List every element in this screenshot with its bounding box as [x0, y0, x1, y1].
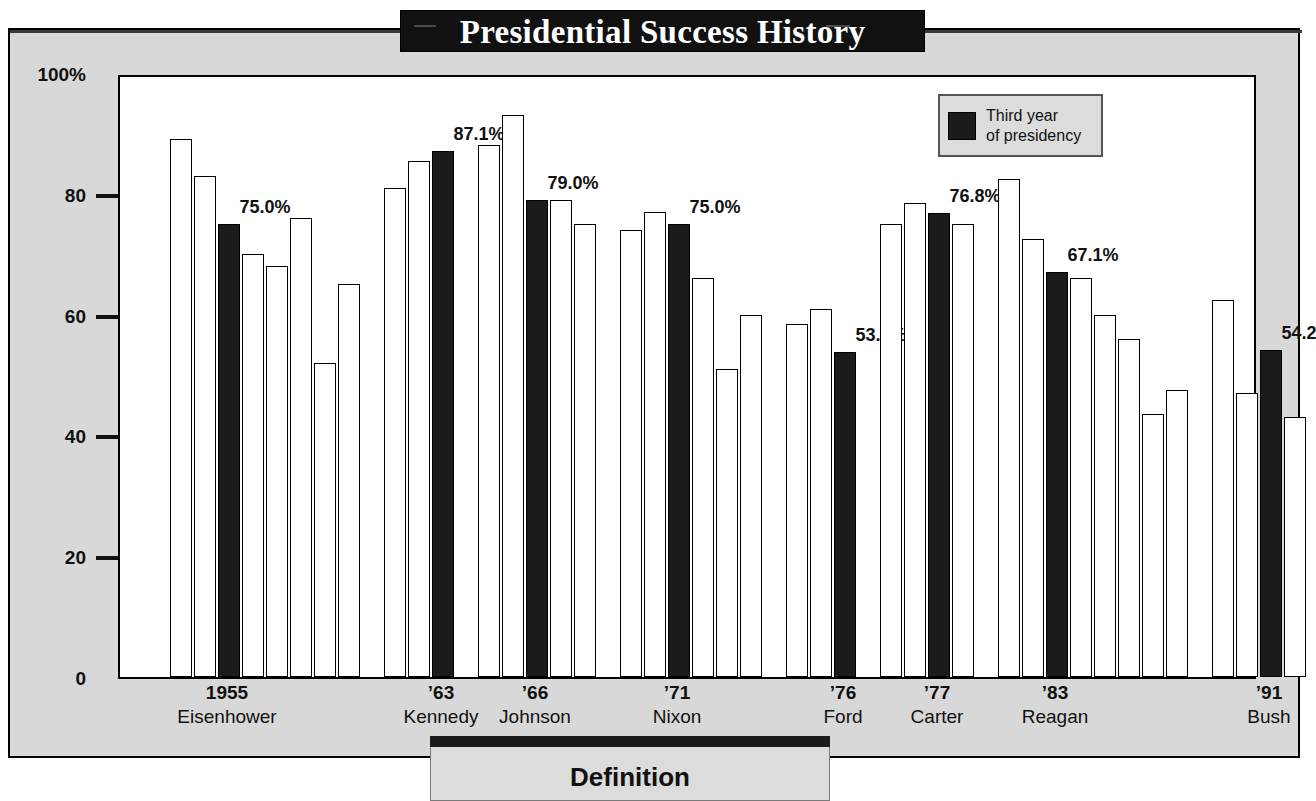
bar-third-year — [668, 224, 690, 677]
x-axis-president: Eisenhower — [177, 705, 276, 729]
bar-third-year — [834, 352, 856, 677]
bar — [1236, 393, 1258, 677]
bar-third-year — [432, 151, 454, 677]
bar-value-label: 76.8% — [949, 186, 1000, 207]
bar — [740, 315, 762, 677]
bar — [1212, 300, 1234, 678]
bar — [880, 224, 902, 677]
y-tick-label: 40 — [65, 426, 86, 448]
definition-panel: Definition — [430, 736, 830, 801]
chart-panel: 100%806040200 75.0%87.1%79.0%75.0%53.8%7… — [8, 28, 1300, 758]
definition-rule-right — [826, 25, 850, 27]
y-tick-mark — [96, 435, 120, 439]
bar-value-label: 79.0% — [547, 173, 598, 194]
x-axis-president: Reagan — [1022, 705, 1089, 729]
bar — [550, 200, 572, 677]
bars-container: 75.0%87.1%79.0%75.0%53.8%76.8%67.1%54.2%… — [120, 77, 1254, 677]
bar — [478, 145, 500, 677]
title-rule-right — [924, 30, 1302, 33]
y-tick-label: 80 — [65, 185, 86, 207]
bar-third-year — [1260, 350, 1282, 677]
x-axis-group-reagan: ’83Reagan — [1022, 681, 1089, 729]
y-tick-label: 60 — [65, 306, 86, 328]
x-axis-year: ’77 — [911, 681, 964, 705]
chart-page: Presidential Success History 100%8060402… — [0, 0, 1316, 801]
x-axis-president: Johnson — [499, 705, 571, 729]
x-axis-year: ’71 — [653, 681, 702, 705]
page-title: Presidential Success History — [400, 10, 925, 52]
bar — [314, 363, 336, 677]
bar-third-year — [928, 213, 950, 677]
bar-third-year — [1046, 272, 1068, 677]
y-tick-mark — [96, 315, 120, 319]
bar — [502, 115, 524, 677]
plot-area: 75.0%87.1%79.0%75.0%53.8%76.8%67.1%54.2%… — [118, 75, 1256, 679]
legend-swatch-third-year — [948, 112, 976, 140]
y-axis: 100%806040200 — [10, 75, 120, 683]
definition-label: Definition — [430, 747, 830, 801]
bar — [716, 369, 738, 677]
definition-topbar — [430, 736, 830, 747]
x-axis-year: ’63 — [403, 681, 478, 705]
bar — [644, 212, 666, 677]
definition-rule-left — [414, 25, 436, 27]
bar — [574, 224, 596, 677]
bar — [266, 266, 288, 677]
x-axis-year: ’66 — [499, 681, 571, 705]
legend-label-line1: Third year — [986, 106, 1081, 125]
title-rule-left — [10, 30, 402, 33]
x-axis-group-kennedy: ’63Kennedy — [403, 681, 478, 729]
x-axis-president: Kennedy — [403, 705, 478, 729]
bar — [786, 324, 808, 677]
bar — [1094, 315, 1116, 677]
legend-label-line2: of presidency — [986, 126, 1081, 145]
bar — [194, 176, 216, 677]
x-axis-year: 1955 — [177, 681, 276, 705]
y-tick-label: 0 — [75, 668, 86, 690]
bar-value-label: 54.2% — [1281, 323, 1316, 344]
y-tick-label: 20 — [65, 547, 86, 569]
bar — [170, 139, 192, 677]
bar-series: 75.0%87.1%79.0%75.0%53.8%76.8%67.1%54.2%… — [120, 77, 1254, 677]
y-tick-label: 100% — [37, 64, 86, 86]
x-axis-year: ’83 — [1022, 681, 1089, 705]
bar — [242, 254, 264, 677]
bar-third-year — [526, 200, 548, 677]
legend-label: Third year of presidency — [986, 106, 1081, 144]
y-tick-mark — [96, 556, 120, 560]
bar — [1166, 390, 1188, 677]
x-axis-president: Ford — [823, 705, 862, 729]
bar — [952, 224, 974, 677]
x-axis-group-bush: ’91Bush — [1247, 681, 1290, 729]
bar — [998, 179, 1020, 677]
bar — [384, 188, 406, 677]
bar — [1022, 239, 1044, 677]
bar — [290, 218, 312, 677]
y-tick-mark — [96, 194, 120, 198]
x-axis-president: Carter — [911, 705, 964, 729]
x-axis-group-ford: ’76Ford — [823, 681, 862, 729]
x-axis-group-nixon: ’71Nixon — [653, 681, 702, 729]
bar — [408, 161, 430, 677]
x-axis-group-carter: ’77Carter — [911, 681, 964, 729]
bar-value-label: 75.0% — [239, 197, 290, 218]
bar — [620, 230, 642, 677]
bar — [692, 278, 714, 677]
bar — [904, 203, 926, 677]
x-axis-year: ’91 — [1247, 681, 1290, 705]
bar-value-label: 67.1% — [1067, 245, 1118, 266]
x-axis-year: ’76 — [823, 681, 862, 705]
bar — [1142, 414, 1164, 677]
x-axis-group-johnson: ’66Johnson — [499, 681, 571, 729]
bar-third-year — [218, 224, 240, 677]
bar — [1118, 339, 1140, 677]
x-axis-president: Bush — [1247, 705, 1290, 729]
legend: Third year of presidency — [938, 94, 1103, 157]
bar-value-label: 75.0% — [689, 197, 740, 218]
x-axis-president: Nixon — [653, 705, 702, 729]
bar — [338, 284, 360, 677]
bar — [810, 309, 832, 677]
x-axis-group-eisenhower: 1955Eisenhower — [177, 681, 276, 729]
bar-value-label: 87.1% — [453, 124, 504, 145]
bar — [1070, 278, 1092, 677]
